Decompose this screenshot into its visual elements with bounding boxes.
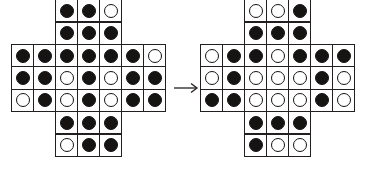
board-cell[interactable] — [77, 111, 100, 134]
board-cell[interactable] — [266, 0, 289, 22]
white-stone-icon — [293, 71, 307, 85]
board-cell[interactable] — [222, 89, 245, 112]
black-stone-icon — [38, 71, 52, 85]
board-cell[interactable] — [266, 44, 289, 67]
white-stone-icon — [271, 4, 285, 18]
black-stone-icon — [126, 49, 140, 63]
board-cell[interactable] — [222, 44, 245, 67]
board-cell[interactable] — [244, 44, 267, 67]
board-cell[interactable] — [288, 22, 311, 45]
board-cell[interactable] — [99, 66, 122, 89]
black-stone-icon — [60, 4, 74, 18]
board-cell[interactable] — [55, 134, 78, 157]
board-cell[interactable] — [266, 134, 289, 157]
board-cell[interactable] — [288, 44, 311, 67]
board-cell[interactable] — [200, 66, 223, 89]
board-cell[interactable] — [11, 66, 34, 89]
board-cell-absent — [34, 22, 56, 44]
board-cell[interactable] — [266, 111, 289, 134]
board-cell-absent — [12, 0, 34, 22]
board-cell[interactable] — [11, 89, 34, 112]
black-stone-icon — [16, 71, 30, 85]
board-cell[interactable] — [244, 22, 267, 45]
board-cell[interactable] — [200, 89, 223, 112]
board-cell[interactable] — [244, 89, 267, 112]
board-cell[interactable] — [332, 89, 355, 112]
white-stone-icon — [104, 4, 118, 18]
board-cell[interactable] — [77, 66, 100, 89]
board-cell-absent — [223, 0, 245, 22]
board-cell[interactable] — [55, 0, 78, 22]
board-cell-absent — [333, 134, 355, 156]
board-cell[interactable] — [244, 134, 267, 157]
black-stone-icon — [82, 93, 96, 107]
board-cell[interactable] — [143, 44, 166, 67]
board-cell[interactable] — [77, 22, 100, 45]
board-cell[interactable] — [33, 66, 56, 89]
board-cell[interactable] — [244, 66, 267, 89]
board-cell[interactable] — [99, 0, 122, 22]
white-stone-icon — [104, 93, 118, 107]
black-stone-icon — [315, 71, 329, 85]
board-cell[interactable] — [55, 22, 78, 45]
board-cell[interactable] — [77, 89, 100, 112]
board-cell[interactable] — [244, 111, 267, 134]
white-stone-icon — [104, 71, 118, 85]
board-cell[interactable] — [55, 89, 78, 112]
board-cell[interactable] — [11, 44, 34, 67]
transformation-figure — [0, 0, 371, 176]
black-stone-icon — [293, 4, 307, 18]
board-cell[interactable] — [99, 134, 122, 157]
board-cell[interactable] — [33, 44, 56, 67]
board-cell[interactable] — [143, 66, 166, 89]
board-cell[interactable] — [143, 89, 166, 112]
board-cell[interactable] — [99, 22, 122, 45]
board-cell[interactable] — [99, 111, 122, 134]
board-cell-absent — [201, 0, 223, 22]
board-cell[interactable] — [77, 0, 100, 22]
board-cell[interactable] — [332, 66, 355, 89]
board-cell[interactable] — [77, 44, 100, 67]
left-board-grid — [12, 0, 166, 157]
white-stone-icon — [271, 49, 285, 63]
board-cell-absent — [201, 134, 223, 156]
board-cell[interactable] — [55, 66, 78, 89]
black-stone-icon — [337, 49, 351, 63]
board-cell[interactable] — [121, 66, 144, 89]
board-cell[interactable] — [33, 89, 56, 112]
board-cell[interactable] — [310, 89, 333, 112]
board-cell[interactable] — [288, 0, 311, 22]
board-cell[interactable] — [288, 66, 311, 89]
board-cell[interactable] — [55, 44, 78, 67]
board-cell-absent — [144, 112, 166, 134]
black-stone-icon — [227, 49, 241, 63]
board-cell[interactable] — [288, 89, 311, 112]
board-cell[interactable] — [99, 89, 122, 112]
board-cell[interactable] — [200, 44, 223, 67]
board-cell[interactable] — [266, 66, 289, 89]
board-cell[interactable] — [310, 66, 333, 89]
board-cell-absent — [223, 22, 245, 44]
board-cell-absent — [201, 22, 223, 44]
board-cell[interactable] — [121, 89, 144, 112]
black-stone-icon — [293, 49, 307, 63]
black-stone-icon — [60, 116, 74, 130]
board-cell[interactable] — [55, 111, 78, 134]
black-stone-icon — [82, 71, 96, 85]
board-cell[interactable] — [77, 134, 100, 157]
board-cell[interactable] — [332, 44, 355, 67]
board-cell[interactable] — [288, 111, 311, 134]
white-stone-icon — [16, 93, 30, 107]
board-cell[interactable] — [266, 89, 289, 112]
board-cell-absent — [333, 112, 355, 134]
board-cell-absent — [12, 112, 34, 134]
board-cell[interactable] — [121, 44, 144, 67]
board-cell[interactable] — [266, 22, 289, 45]
black-stone-icon — [271, 116, 285, 130]
board-cell[interactable] — [244, 0, 267, 22]
board-cell[interactable] — [310, 44, 333, 67]
board-cell[interactable] — [288, 134, 311, 157]
white-stone-icon — [60, 138, 74, 152]
board-cell[interactable] — [222, 66, 245, 89]
board-cell[interactable] — [99, 44, 122, 67]
